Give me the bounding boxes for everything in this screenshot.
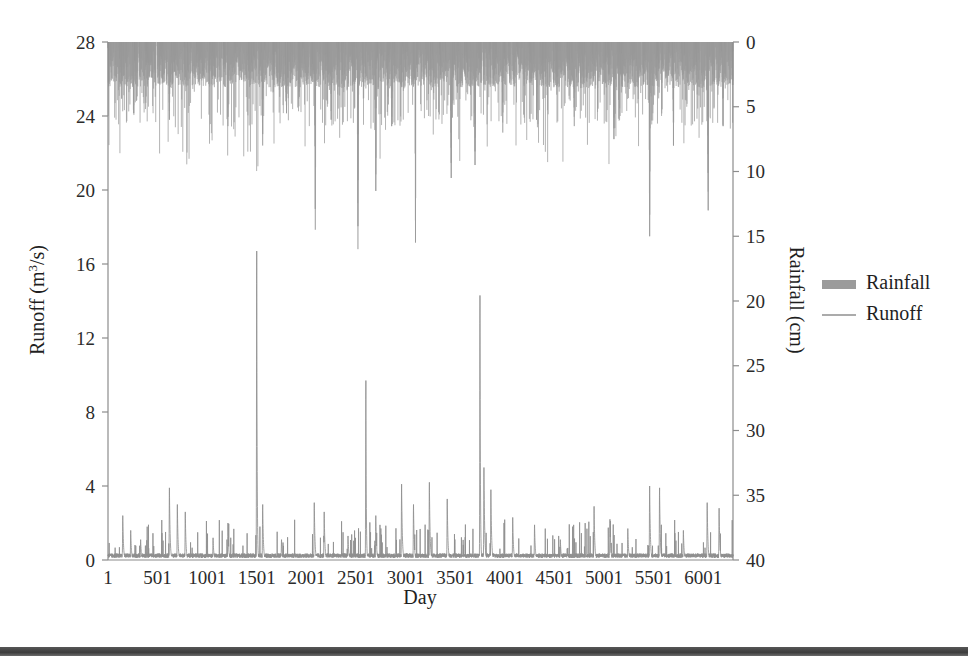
- legend-swatch-rainfall: [822, 280, 856, 289]
- right-tick-label: 40: [746, 550, 765, 571]
- x-tick-label: 4501: [535, 567, 573, 588]
- left-axis-title-tail: /s): [26, 245, 49, 265]
- x-tick-label: 3001: [387, 567, 425, 588]
- x-tick-label: 3501: [436, 567, 474, 588]
- left-tick-label: 24: [76, 106, 96, 127]
- left-tick-label: 28: [76, 32, 95, 53]
- left-axis-title-text: Runoff (m: [26, 271, 49, 355]
- x-axis-title: Day: [403, 586, 436, 609]
- x-tick-label: 1: [103, 567, 113, 588]
- left-tick-label: 4: [86, 476, 96, 497]
- svg-text:Runoff (m3/s): Runoff (m3/s): [25, 245, 49, 355]
- x-tick-label: 6001: [684, 567, 722, 588]
- right-tick-label: 0: [746, 32, 756, 53]
- left-tick-label: 8: [86, 402, 96, 423]
- right-axis-title: Rainfall (cm): [785, 246, 808, 353]
- x-tick-label: 5501: [635, 567, 673, 588]
- legend-label: Rainfall: [866, 271, 931, 293]
- figure-container: 0481216202428 0510152025303540 150110011…: [0, 0, 968, 656]
- left-tick-label: 16: [76, 254, 95, 275]
- x-tick-label: 501: [143, 567, 172, 588]
- left-axis-title: Runoff (m3/s): [25, 245, 49, 355]
- legend-label: Runoff: [866, 302, 923, 324]
- x-tick-label: 4001: [486, 567, 524, 588]
- x-tick-label: 1501: [238, 567, 276, 588]
- right-tick-label: 15: [746, 226, 765, 247]
- left-tick-label: 0: [86, 550, 96, 571]
- left-tick-label: 20: [76, 180, 95, 201]
- right-tick-label: 10: [746, 161, 765, 182]
- page-bottom-edge: [0, 647, 968, 656]
- x-tick-label: 5001: [585, 567, 623, 588]
- x-tick-label: 2001: [287, 567, 325, 588]
- right-axis-title-text: Rainfall (cm): [785, 246, 808, 353]
- x-tick-label: 2501: [337, 567, 375, 588]
- right-tick-label: 25: [746, 355, 765, 376]
- x-tick-label: 1001: [188, 567, 226, 588]
- right-tick-label: 5: [746, 96, 756, 117]
- right-tick-label: 20: [746, 291, 765, 312]
- rainfall-runoff-chart: 0481216202428 0510152025303540 150110011…: [0, 0, 968, 656]
- right-tick-label: 35: [746, 485, 765, 506]
- right-tick-label: 30: [746, 420, 765, 441]
- left-tick-label: 12: [76, 328, 95, 349]
